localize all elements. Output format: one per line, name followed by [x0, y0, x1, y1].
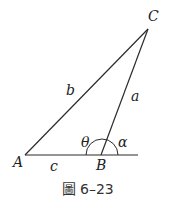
figure-caption-icon: 圖 [62, 181, 76, 197]
side-label-c: c [50, 158, 58, 174]
vertex-label-b: B [95, 157, 106, 173]
side-label-b: b [66, 82, 75, 98]
figure-caption-text: 6–23 [80, 181, 114, 197]
angle-label-alpha: α [118, 134, 128, 150]
triangle-diagram: C A B b a c θ α 圖 6–23 [0, 0, 169, 208]
angle-label-theta: θ [81, 134, 90, 150]
side-label-a: a [131, 88, 139, 104]
vertex-label-a: A [11, 154, 23, 170]
vertex-label-c: C [148, 8, 159, 24]
